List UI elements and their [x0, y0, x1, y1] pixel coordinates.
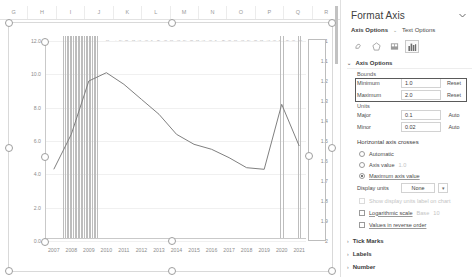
crosses-axis-value-label: Axis value: [369, 162, 395, 168]
units-major-label: Major: [357, 112, 401, 118]
column-header-p[interactable]: P: [256, 6, 284, 19]
resize-handle-top-right[interactable]: [328, 19, 336, 27]
units-major-auto-button[interactable]: Auto: [441, 112, 467, 118]
y-axis-tick-label: 6.0: [15, 138, 41, 144]
resize-handle-bottom-left[interactable]: [5, 267, 13, 275]
bounds-maximum-reset-button[interactable]: Reset: [441, 92, 467, 98]
column-header-g[interactable]: G: [0, 6, 28, 19]
crosses-axis-value-input[interactable]: 1.0: [399, 162, 407, 168]
column-header-h[interactable]: H: [28, 6, 56, 19]
y-axis-tick-label: 8.0: [15, 105, 41, 111]
section-axis-options-header[interactable]: ⌄ Axis Options: [347, 60, 472, 66]
radio-maximum-axis-value[interactable]: [359, 173, 365, 179]
effects-icon[interactable]: [369, 40, 383, 53]
resize-handle-bottom-right[interactable]: [328, 267, 336, 275]
chevron-right-icon-labels: ›: [347, 251, 349, 257]
secondary-axis-handle[interactable]: [305, 152, 313, 160]
section-labels-label: Labels: [353, 251, 372, 257]
worksheet-area: GHIJKLMNOPQR 112345678910111213141516171…: [0, 0, 341, 277]
crosses-label: Horizontal axis crosses: [357, 139, 472, 145]
tab-axis-options[interactable]: Axis Options: [351, 27, 388, 33]
units-minor-input[interactable]: 0.02: [401, 122, 441, 132]
section-number-label: Number: [353, 264, 376, 270]
section-axis-options-label: Axis Options: [355, 60, 392, 66]
bounds-maximum-input[interactable]: 2.0: [401, 90, 441, 100]
bounds-minimum-input[interactable]: 1.0: [401, 78, 441, 88]
x-axis-tick-label: 2021: [288, 247, 310, 253]
y-axis-tick-label: 0.0: [15, 238, 41, 244]
axis-handle-top[interactable]: [41, 38, 49, 46]
crosses-maximum-row[interactable]: Maximum axis value: [359, 170, 472, 181]
section-axis-options[interactable]: ⌄ Axis Options: [347, 60, 472, 69]
collapsed-sections: › Tick Marks › Labels › Number: [341, 234, 472, 273]
crosses-automatic-row[interactable]: Automatic: [359, 148, 472, 159]
format-axis-pane: Format Axis Axis Options ⌄ Text Options …: [340, 0, 476, 277]
crosses-maximum-label: Maximum axis value: [369, 173, 420, 179]
checkbox-logarithmic-scale[interactable]: [359, 210, 365, 216]
chevron-down-icon-display-units[interactable]: ▾: [438, 183, 448, 193]
section-labels[interactable]: › Labels: [347, 247, 472, 260]
column-headers: GHIJKLMNOPQR: [0, 6, 341, 20]
units-minor-auto-button[interactable]: Auto: [441, 124, 467, 130]
chart-object[interactable]: 1123456789101112131415161718192021222324…: [8, 22, 333, 272]
pane-title: Format Axis: [351, 10, 405, 21]
logarithmic-label: Logarithmic scale: [369, 210, 413, 216]
fill-line-icon[interactable]: [351, 40, 365, 53]
radio-automatic[interactable]: [359, 151, 365, 157]
resize-handle-top-left[interactable]: [5, 19, 13, 27]
section-tick-marks[interactable]: › Tick Marks: [347, 234, 472, 247]
section-number[interactable]: › Number: [347, 260, 472, 273]
axis-options-icon[interactable]: [405, 40, 419, 53]
column-header-i[interactable]: I: [57, 6, 85, 19]
chevron-down-icon-tab[interactable]: ⌄: [393, 27, 397, 33]
primary-y-axis[interactable]: [45, 41, 46, 239]
reverse-order-row[interactable]: Values in reverse order: [359, 219, 426, 230]
show-display-units-label: Show display units label on chart: [369, 198, 450, 204]
checkbox-values-in-reverse-order[interactable]: [359, 222, 365, 228]
show-display-units-row[interactable]: Show display units label on chart: [359, 195, 450, 206]
pane-tab-strip: Axis Options ⌄ Text Options: [351, 27, 435, 33]
column-header-m[interactable]: M: [171, 6, 199, 19]
pane-scrollbar[interactable]: [335, 6, 338, 64]
column-header-j[interactable]: J: [85, 6, 113, 19]
size-properties-icon[interactable]: [387, 40, 401, 53]
column-header-k[interactable]: K: [114, 6, 142, 19]
crosses-axis-value-row[interactable]: Axis value 1.0: [359, 159, 472, 170]
line-series-path[interactable]: [45, 41, 308, 241]
resize-handle-top-center[interactable]: [168, 19, 176, 27]
display-units-label: Display units: [357, 185, 401, 191]
section-tick-marks-label: Tick Marks: [353, 238, 384, 244]
bounds-minimum-row: Minimum 1.0 Reset: [357, 77, 472, 89]
chevron-down-icon[interactable]: [458, 11, 467, 20]
checkbox-show-display-units[interactable]: [359, 198, 365, 204]
column-header-n[interactable]: N: [199, 6, 227, 19]
chevron-down-icon-section: ⌄: [347, 60, 351, 66]
logarithmic-base-input[interactable]: 10: [433, 210, 439, 216]
axis-handle-middle[interactable]: [41, 153, 49, 161]
tab-text-options[interactable]: Text Options: [402, 27, 435, 33]
x-axis-handle[interactable]: [168, 237, 176, 245]
radio-axis-value[interactable]: [359, 162, 365, 168]
column-header-o[interactable]: O: [227, 6, 255, 19]
column-header-l[interactable]: L: [142, 6, 170, 19]
secondary-y-axis[interactable]: [308, 39, 326, 241]
plot-area[interactable]: 0.02.04.06.08.010.012.011.11.21.31.41.51…: [45, 41, 306, 239]
units-major-input[interactable]: 0.1: [401, 110, 441, 120]
logarithmic-row[interactable]: Logarithmic scale Base 10: [359, 207, 440, 218]
bounds-maximum-row: Maximum 2.0 Reset: [357, 89, 472, 101]
y-axis-tick-label: 4.0: [15, 171, 41, 177]
display-units-select[interactable]: None: [401, 183, 435, 193]
bounds-minimum-label: Minimum: [357, 80, 401, 86]
reverse-order-label: Values in reverse order: [369, 222, 426, 228]
bounds-maximum-label: Maximum: [357, 92, 401, 98]
resize-handle-middle-right[interactable]: [328, 144, 336, 152]
units-minor-label: Minor: [357, 124, 401, 130]
units-group: Units Major 0.1 Auto Minor 0.02 Auto: [347, 103, 472, 133]
y-axis-tick-label: 12.0: [15, 38, 41, 44]
bounds-minimum-reset-button[interactable]: Reset: [441, 80, 467, 86]
crosses-automatic-label: Automatic: [369, 151, 394, 157]
axis-handle-bottom[interactable]: [41, 238, 49, 246]
resize-handle-bottom-center[interactable]: [168, 267, 176, 275]
resize-handle-middle-left[interactable]: [5, 144, 13, 152]
column-header-q[interactable]: Q: [284, 6, 312, 19]
